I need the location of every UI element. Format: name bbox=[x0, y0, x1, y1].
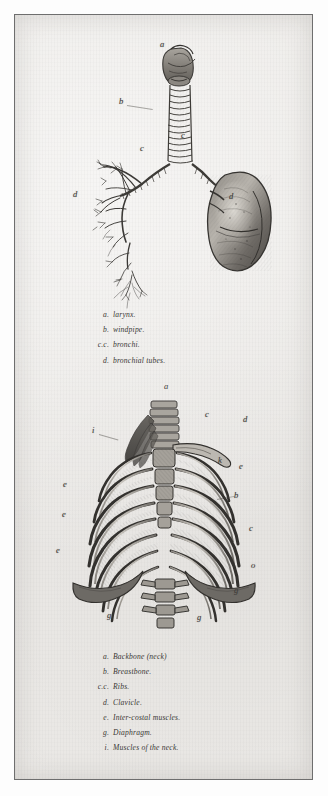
key-text: bronchial tubes. bbox=[113, 357, 247, 365]
thoracic-skeleton-illustration bbox=[45, 397, 285, 632]
figure2-label-e-left-1: e bbox=[63, 480, 67, 489]
figure1-label-d-right: d bbox=[229, 192, 233, 201]
key-row: a. Backbone (neck) bbox=[87, 653, 267, 661]
key-text: larynx. bbox=[113, 311, 247, 319]
key-text: Clavicle. bbox=[113, 699, 267, 707]
figure1-label-c-left: c bbox=[140, 144, 144, 153]
key-mark: b. bbox=[87, 326, 113, 334]
key-text: Breastbone. bbox=[113, 668, 267, 676]
key-text: Backbone (neck) bbox=[113, 653, 267, 661]
figure2-label-e-left-2: e bbox=[62, 510, 66, 519]
figure2-label-k: k bbox=[218, 456, 222, 465]
figure1-label-b: b bbox=[119, 97, 123, 106]
engraving-border: a b c c d d a. larynx. b. windpipe. c.c.… bbox=[14, 14, 313, 780]
figure2-label-i: i bbox=[92, 426, 94, 435]
figure-respiratory-tract bbox=[40, 31, 290, 316]
respiratory-tract-illustration bbox=[40, 31, 290, 316]
key-row: b. Breastbone. bbox=[87, 668, 267, 676]
key-row: d. bronchial tubes. bbox=[87, 357, 247, 365]
key-mark: d. bbox=[87, 699, 113, 707]
bronchial-tubes-tree bbox=[93, 160, 147, 308]
key-mark: c.c. bbox=[87, 683, 113, 691]
key-text: Muscles of the neck. bbox=[113, 744, 267, 752]
key-mark: b. bbox=[87, 668, 113, 676]
trachea-structure bbox=[168, 85, 193, 164]
figure2-label-d: d bbox=[243, 415, 247, 424]
figure2-caption-key: a. Backbone (neck) b. Breastbone. c.c. R… bbox=[87, 653, 267, 759]
bronchi-structure bbox=[120, 164, 224, 199]
lung-structure bbox=[208, 172, 272, 271]
figure2-label-c-right: c bbox=[249, 524, 253, 533]
figure2-label-e-left-3: e bbox=[56, 546, 60, 555]
key-text: bronchi. bbox=[113, 341, 247, 349]
figure2-plate-letter-a: a bbox=[164, 381, 168, 391]
key-row: a. larynx. bbox=[87, 311, 247, 319]
figure2-label-c-top: c bbox=[205, 410, 209, 419]
key-mark: d. bbox=[87, 357, 113, 365]
figure2-label-g-right: g bbox=[234, 586, 238, 595]
figure2-label-g-bottom-right: g bbox=[197, 613, 201, 622]
larynx-structure bbox=[163, 45, 195, 86]
lumbar-spine-structure bbox=[141, 579, 189, 628]
key-mark: e. bbox=[87, 714, 113, 722]
key-row: g. Diaphragm. bbox=[87, 729, 267, 737]
key-text: Ribs. bbox=[113, 683, 267, 691]
key-row: e. Inter-costal muscles. bbox=[87, 714, 267, 722]
key-text: windpipe. bbox=[113, 326, 247, 334]
figure1-label-d-left: d bbox=[73, 190, 77, 199]
key-mark: a. bbox=[87, 653, 113, 661]
key-row: i. Muscles of the neck. bbox=[87, 744, 267, 752]
key-text: Inter-costal muscles. bbox=[113, 714, 267, 722]
key-mark: c.c. bbox=[87, 341, 113, 349]
key-mark: a. bbox=[87, 311, 113, 319]
figure1-label-a: a bbox=[160, 40, 164, 49]
key-row: c.c. bronchi. bbox=[87, 341, 247, 349]
key-text: Diaphragm. bbox=[113, 729, 267, 737]
key-row: c.c. Ribs. bbox=[87, 683, 267, 691]
key-mark: i. bbox=[87, 744, 113, 752]
figure-thoracic-skeleton bbox=[45, 397, 285, 632]
figure2-label-g-bottom-left: g bbox=[107, 611, 111, 620]
anatomical-plate-page: a b c c d d a. larynx. b. windpipe. c.c.… bbox=[0, 0, 328, 796]
breastbone-structure bbox=[153, 449, 175, 528]
key-row: d. Clavicle. bbox=[87, 699, 267, 707]
figure2-label-e-right-top: e bbox=[239, 462, 243, 471]
figure1-label-c-right: c bbox=[181, 131, 185, 140]
figure1-caption-key: a. larynx. b. windpipe. c.c. bronchi. d.… bbox=[87, 311, 247, 372]
figure2-label-o: o bbox=[251, 561, 255, 570]
key-mark: g. bbox=[87, 729, 113, 737]
key-row: b. windpipe. bbox=[87, 326, 247, 334]
